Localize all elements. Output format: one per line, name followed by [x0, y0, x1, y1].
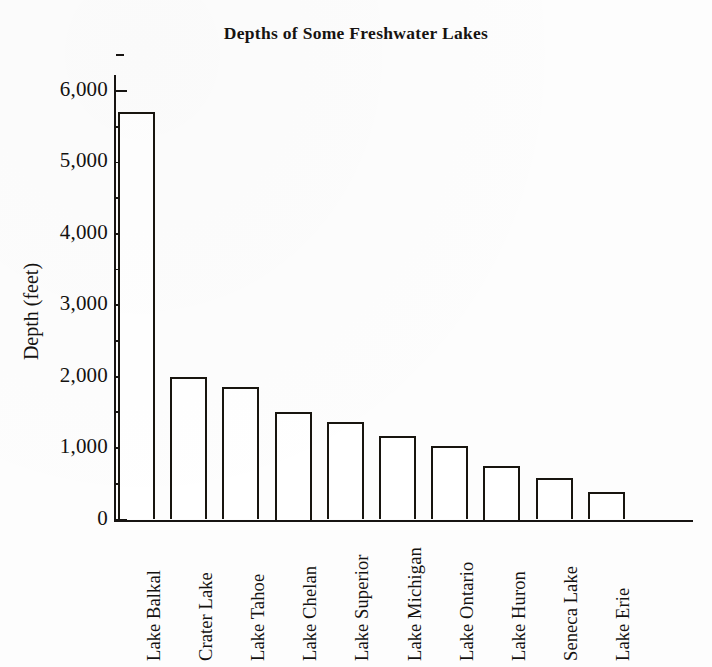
y-tick-label: 4,000	[8, 220, 108, 245]
x-tick-label: Lake Erie	[613, 471, 634, 661]
x-tick-label: Lake Chelan	[300, 471, 321, 661]
bar	[118, 112, 155, 519]
x-tick-label: Seneca Lake	[561, 471, 582, 661]
x-tick-label: Crater Lake	[196, 471, 217, 661]
x-tick-label: Lake Tahoe	[248, 471, 269, 661]
x-tick-label: Lake Ontario	[457, 471, 478, 661]
x-tick-label: Lake Michigan	[405, 471, 426, 661]
y-axis-line	[114, 75, 116, 522]
y-tick-label: 5,000	[8, 148, 108, 173]
y-tick-label: 1,000	[8, 434, 108, 459]
x-tick-label: Lake Huron	[509, 471, 530, 661]
plot-area: Depth (feet) 01,0002,0003,0004,0005,0006…	[0, 0, 712, 667]
x-tick-label: Lake Balkal	[144, 471, 165, 661]
x-tick-label: Lake Superior	[352, 471, 373, 661]
y-tick-label: 6,000	[8, 77, 108, 102]
y-tick-minor	[116, 54, 124, 56]
y-tick-label: 3,000	[8, 291, 108, 316]
y-tick-major	[116, 90, 127, 92]
y-tick-label: 0	[8, 506, 108, 531]
chart-page: Depths of Some Freshwater Lakes Depth (f…	[0, 0, 712, 667]
y-tick-label: 2,000	[8, 363, 108, 388]
